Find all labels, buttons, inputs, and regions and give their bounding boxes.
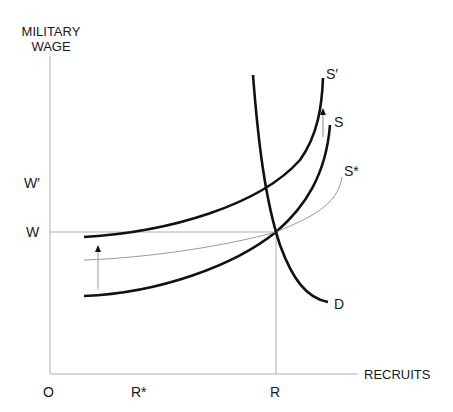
label-s-star: S* (344, 163, 359, 179)
y-axis-title-line1: MILITARY (16, 24, 86, 39)
supply-curve-s-prime (84, 78, 323, 237)
label-s: S (334, 114, 343, 130)
y-axis-title-line2: WAGE (16, 39, 86, 54)
x-axis-title: RECRUITS (364, 367, 430, 382)
origin-label: O (43, 384, 54, 400)
label-d: D (334, 296, 344, 312)
shift-arrow-left-head (95, 245, 101, 252)
y-axis-title: MILITARY WAGE (16, 24, 86, 54)
x-tick-r: R (270, 384, 280, 400)
supply-curve-s (84, 125, 330, 296)
diagram-canvas (0, 0, 453, 412)
y-tick-w: W (26, 224, 39, 240)
supply-curve-s-star (84, 177, 342, 260)
x-tick-r-star: R* (131, 384, 147, 400)
label-s-prime: S′ (326, 66, 338, 82)
y-tick-w-prime: W′ (24, 175, 40, 191)
